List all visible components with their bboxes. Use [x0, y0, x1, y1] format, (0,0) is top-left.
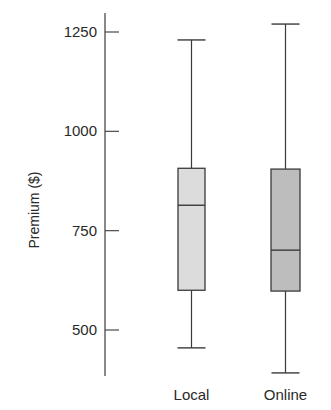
box-local: [178, 40, 206, 348]
y-axis-title: Premium ($): [26, 171, 42, 248]
y-tick-label: 500: [72, 321, 97, 338]
y-tick-label: 1250: [64, 23, 97, 40]
iqr-box: [178, 168, 205, 290]
y-tick-label: 750: [72, 222, 97, 239]
y-tick-label: 1000: [64, 122, 97, 139]
boxes: [178, 24, 301, 373]
x-axis-labels: LocalOnline: [174, 386, 308, 403]
box-online: [271, 24, 300, 373]
y-axis: 50075010001250: [64, 13, 119, 376]
x-category-label: Local: [174, 386, 210, 403]
x-category-label: Online: [264, 386, 307, 403]
box-plot-chart: 50075010001250 Premium ($) LocalOnline: [0, 0, 331, 410]
iqr-box: [271, 169, 300, 291]
